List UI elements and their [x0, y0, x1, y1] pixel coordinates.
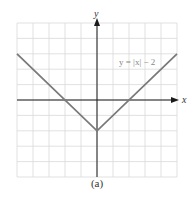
axes — [17, 18, 179, 177]
y-axis-arrow-icon — [94, 18, 100, 26]
y-axis-label: y — [93, 8, 99, 19]
graph: x y y = |x| − 2 — [0, 0, 194, 199]
x-axis-arrow-icon — [171, 97, 179, 103]
equation-label: y = |x| − 2 — [119, 57, 155, 67]
figure-caption: (a) — [0, 177, 194, 189]
x-axis-label: x — [181, 94, 187, 105]
